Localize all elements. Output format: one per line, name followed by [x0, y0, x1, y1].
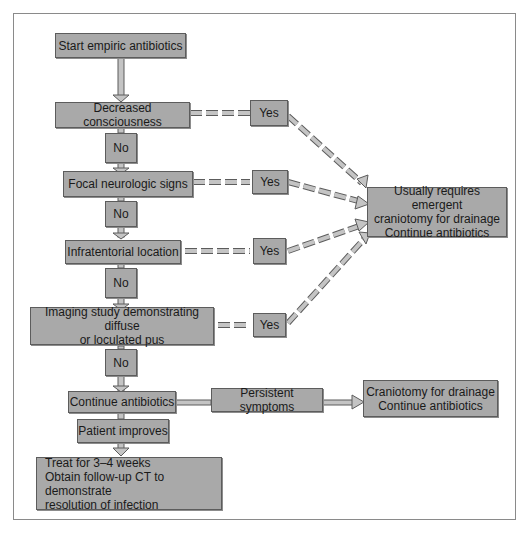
yes-label: Yes — [260, 175, 280, 189]
craniotomy-label: Craniotomy for drainage Continue antibio… — [366, 385, 495, 413]
emergent-outcome-label: Usually requires emergent craniotomy for… — [368, 184, 506, 240]
persistent-symptoms-box: Persistent symptoms — [211, 388, 323, 412]
yes-label-box: Yes — [253, 313, 286, 337]
improves-label: Patient improves — [78, 424, 167, 438]
yes-label-box: Yes — [250, 100, 288, 126]
yes-label: Yes — [260, 318, 280, 332]
decision-focal-neurologic: Focal neurologic signs — [63, 171, 193, 197]
continue-antibiotics-box: Continue antibiotics — [68, 391, 176, 413]
no-label-box: No — [105, 133, 137, 163]
no-label: No — [113, 141, 128, 155]
decision-decreased-consciousness: Decreased consciousness — [55, 102, 190, 128]
yes-label: Yes — [259, 106, 279, 120]
decision-imaging-pus: Imaging study demonstrating diffuse or l… — [30, 307, 214, 345]
emergent-craniotomy-outcome: Usually requires emergent craniotomy for… — [367, 187, 507, 237]
yes-label-box: Yes — [253, 238, 286, 264]
dashed-outcome-arrows — [288, 116, 365, 323]
treat-box: Treat for 3–4 weeks Obtain follow-up CT … — [36, 457, 222, 510]
decision-label: Imaging study demonstrating diffuse or l… — [31, 305, 213, 347]
yes-label-box: Yes — [252, 170, 288, 194]
craniotomy-box: Craniotomy for drainage Continue antibio… — [363, 380, 498, 417]
start-label: Start empiric antibiotics — [58, 39, 182, 53]
no-label: No — [113, 207, 128, 221]
patient-improves-box: Patient improves — [77, 419, 169, 443]
decision-label: Infratentorial location — [67, 245, 178, 259]
no-label: No — [113, 356, 128, 370]
no-label-box: No — [105, 349, 137, 376]
start-antibiotics-box: Start empiric antibiotics — [55, 33, 186, 58]
treat-label: Treat for 3–4 weeks Obtain follow-up CT … — [45, 456, 221, 512]
persistent-label: Persistent symptoms — [212, 386, 322, 414]
no-label-box: No — [105, 268, 137, 298]
dashed-yes-connectors — [185, 113, 250, 325]
decision-label: Focal neurologic signs — [68, 177, 187, 191]
no-label-box: No — [105, 201, 137, 227]
continue-label: Continue antibiotics — [70, 395, 175, 409]
decision-infratentorial: Infratentorial location — [65, 240, 181, 264]
yes-label: Yes — [260, 244, 280, 258]
no-label: No — [113, 276, 128, 290]
decision-label: Decreased consciousness — [56, 101, 189, 129]
